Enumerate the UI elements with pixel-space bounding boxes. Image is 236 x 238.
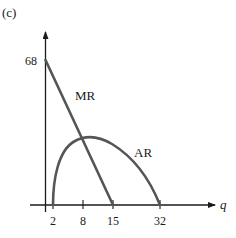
x-axis-label: q xyxy=(220,197,227,212)
x-tick-label-15: 15 xyxy=(107,214,119,228)
y-tick-68: 68 xyxy=(25,54,37,68)
x-tick-label-2: 2 xyxy=(50,214,56,228)
revenue-diagram: (c) q 68 2 8 15 32 MR AR xyxy=(0,0,236,238)
ar-label: AR xyxy=(134,145,152,160)
panel-label: (c) xyxy=(2,5,16,20)
x-tick-label-32: 32 xyxy=(154,214,166,228)
x-tick-label-8: 8 xyxy=(80,214,86,228)
mr-label: MR xyxy=(75,88,96,103)
